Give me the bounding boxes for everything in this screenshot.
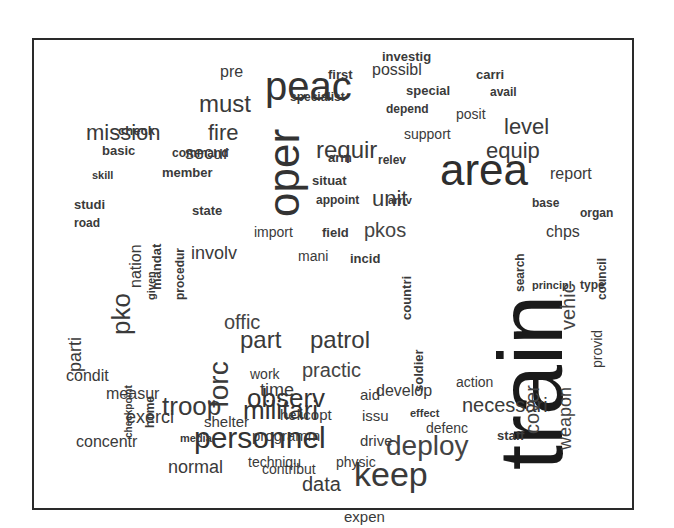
word-organ: organ xyxy=(580,207,613,219)
word-weapon: weapon xyxy=(556,387,574,450)
word-arriv: arriv xyxy=(388,195,412,206)
word-action: action xyxy=(456,375,493,389)
word-arm: arm xyxy=(328,151,352,164)
word-skill: skill xyxy=(92,170,113,181)
word-check: check xyxy=(118,124,155,137)
word-shelter: shelter xyxy=(204,414,249,429)
word-pre: pre xyxy=(220,64,243,80)
word-cloud: trainpeacareaoperpersonnelkeepdeploymili… xyxy=(0,0,674,528)
word-chps: chps xyxy=(546,224,580,240)
word-posit: posit xyxy=(456,107,486,121)
word-basic: basic xyxy=(102,144,135,157)
word-checkpoint: checkpoint xyxy=(124,385,134,438)
word-situat: situat xyxy=(312,174,347,187)
word-work: work xyxy=(250,367,280,381)
word-base: base xyxy=(532,197,559,209)
word-pko: pko xyxy=(108,293,134,335)
word-specialist: specialist xyxy=(290,91,345,103)
word-patrol: patrol xyxy=(310,328,370,352)
word-data: data xyxy=(302,474,341,494)
word-physic: physic xyxy=(336,455,376,469)
word-report: report xyxy=(550,166,592,182)
word-road: road xyxy=(74,217,100,229)
word-import: import xyxy=(254,225,293,239)
word-helicopt: helicopt xyxy=(280,407,332,422)
word-programm: programm xyxy=(252,428,320,443)
word-parti: parti xyxy=(66,337,84,372)
word-provid: provid xyxy=(590,330,604,368)
word-support: support xyxy=(404,127,451,141)
word-normal: normal xyxy=(168,458,223,476)
word-nation: nation xyxy=(128,244,144,288)
word-home: home xyxy=(144,396,156,428)
word-mani: mani xyxy=(298,249,328,263)
word-pkos: pkos xyxy=(364,220,406,240)
word-special: special xyxy=(406,84,450,97)
word-avail: avail xyxy=(490,86,517,98)
word-forc: forc xyxy=(205,361,233,408)
word-time: time xyxy=(260,381,294,399)
word-defenc: defenc xyxy=(426,421,468,435)
word-must: must xyxy=(199,92,251,116)
word-practic: practic xyxy=(302,360,361,380)
word-drive: drive xyxy=(360,433,393,448)
word-contribut: contribut xyxy=(262,462,316,476)
word-involv: involv xyxy=(191,244,237,262)
word-offic: offic xyxy=(224,312,260,332)
word-expen: expen xyxy=(344,509,385,524)
word-depend: depend xyxy=(386,103,429,115)
word-effect: effect xyxy=(410,408,439,419)
word-procedur: procedur xyxy=(174,248,186,300)
word-search: search xyxy=(514,253,526,292)
word-state: state xyxy=(192,204,222,217)
word-relev: relev xyxy=(378,154,406,166)
word-staff: staff xyxy=(497,429,524,442)
word-command: command xyxy=(172,147,229,159)
word-countri: countri xyxy=(400,276,413,320)
word-investig: investig xyxy=(382,50,431,63)
word-necessari: necessari xyxy=(462,395,548,415)
word-oper: oper xyxy=(262,129,306,217)
word-type: type xyxy=(580,279,605,291)
word-carri: carri xyxy=(476,68,504,81)
word-given: given xyxy=(146,271,157,300)
word-level: level xyxy=(504,116,549,138)
word-fire: fire xyxy=(208,122,239,144)
word-member: member xyxy=(162,166,213,179)
word-media: media xyxy=(180,433,212,444)
word-field: field xyxy=(322,226,349,239)
word-first: first xyxy=(328,68,353,81)
word-soldier: soldier xyxy=(412,349,425,392)
word-issu: issu xyxy=(362,408,389,423)
word-equip: equip xyxy=(486,140,540,162)
word-aid: aid xyxy=(360,387,380,402)
word-studi: studi xyxy=(74,198,105,211)
word-principl: principl xyxy=(532,280,572,291)
word-appoint: appoint xyxy=(316,194,359,206)
word-incid: incid xyxy=(350,252,380,265)
